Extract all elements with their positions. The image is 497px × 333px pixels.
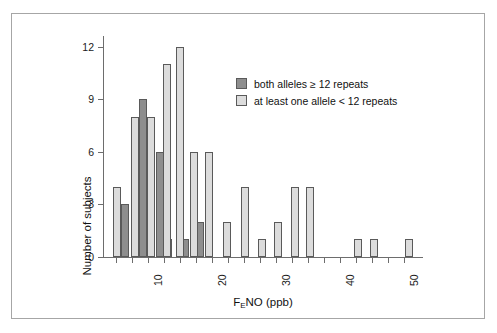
x-axis-tick bbox=[116, 258, 117, 263]
y-axis-tick-label: 6 bbox=[68, 147, 94, 157]
legend-item-dark: both alleles ≥ 12 repeats bbox=[236, 76, 426, 91]
x-axis-tick bbox=[276, 258, 277, 263]
histogram-bar bbox=[258, 239, 266, 257]
histogram-bar bbox=[291, 187, 299, 257]
x-axis-tick-label: 30 bbox=[281, 274, 292, 286]
histogram-bar bbox=[306, 187, 314, 257]
x-axis-title: FENO (ppb) bbox=[103, 296, 423, 308]
x-axis-tick bbox=[180, 258, 181, 263]
y-axis-tick bbox=[98, 152, 103, 153]
x-axis-tick-label: 50 bbox=[409, 274, 420, 286]
histogram-bar bbox=[113, 187, 121, 257]
histogram-plot: 036912 1020304050 Number of subjects FEN… bbox=[0, 0, 497, 333]
histogram-bar bbox=[147, 117, 155, 257]
legend-item-label: both alleles ≥ 12 repeats bbox=[254, 78, 368, 90]
x-axis-line bbox=[103, 257, 423, 258]
x-axis-tick bbox=[148, 258, 149, 263]
x-axis-tick bbox=[356, 258, 357, 263]
y-axis-tick-label: 9 bbox=[68, 94, 94, 104]
x-axis-tick bbox=[260, 258, 261, 263]
histogram-bar bbox=[190, 152, 198, 257]
y-axis-tick-label-text: 9 bbox=[68, 94, 94, 104]
histogram-bar bbox=[274, 222, 282, 257]
histogram-bar bbox=[241, 187, 249, 257]
x-axis-tick-label: 10 bbox=[153, 274, 164, 286]
y-axis-tick bbox=[98, 204, 103, 205]
legend-item-label: at least one allele < 12 repeats bbox=[254, 95, 397, 107]
x-axis-tick bbox=[228, 258, 229, 263]
x-axis-tick bbox=[292, 258, 293, 263]
histogram-bar bbox=[176, 47, 184, 257]
x-axis-title-subscript: E bbox=[240, 301, 245, 310]
x-axis-tick bbox=[404, 258, 405, 263]
histogram-bar bbox=[139, 99, 147, 257]
x-axis-tick bbox=[164, 258, 165, 263]
y-axis-tick-label: 12 bbox=[68, 42, 94, 52]
x-axis-tick bbox=[324, 258, 325, 263]
histogram-bar bbox=[131, 117, 139, 257]
legend-swatch-icon bbox=[236, 95, 247, 106]
x-axis-tick bbox=[388, 258, 389, 263]
x-axis-tick bbox=[132, 258, 133, 263]
y-axis-tick bbox=[98, 47, 103, 48]
x-axis-tick-label: 40 bbox=[345, 274, 356, 286]
x-axis-tick bbox=[212, 258, 213, 263]
histogram-bar bbox=[205, 152, 213, 257]
y-axis-tick-label-text: 6 bbox=[68, 147, 94, 157]
y-axis-title: Number of subjects bbox=[81, 161, 93, 291]
x-axis-tick-label: 20 bbox=[217, 274, 228, 286]
histogram-bar bbox=[354, 239, 362, 257]
x-axis-tick bbox=[308, 258, 309, 263]
y-axis-title-host: Number of subjects bbox=[55, 80, 69, 210]
legend-swatch-icon bbox=[236, 78, 247, 89]
x-axis-title-post: NO (ppb) bbox=[246, 296, 293, 308]
figure-canvas: 036912 1020304050 Number of subjects FEN… bbox=[0, 0, 497, 333]
histogram-bar bbox=[163, 64, 171, 257]
y-axis-tick bbox=[98, 99, 103, 100]
x-axis-tick bbox=[196, 258, 197, 263]
y-axis-tick bbox=[98, 257, 103, 258]
legend: both alleles ≥ 12 repeatsat least one al… bbox=[236, 76, 426, 110]
x-axis-tick bbox=[340, 258, 341, 263]
histogram-bar bbox=[223, 222, 231, 257]
x-axis-tick bbox=[372, 258, 373, 263]
y-axis-line bbox=[103, 36, 104, 258]
histogram-bar bbox=[370, 239, 378, 257]
y-axis-tick-label-text: 12 bbox=[68, 42, 94, 52]
x-axis-tick bbox=[244, 258, 245, 263]
histogram-bar bbox=[405, 239, 413, 257]
histogram-bar bbox=[121, 204, 129, 257]
legend-item-light: at least one allele < 12 repeats bbox=[236, 93, 426, 108]
